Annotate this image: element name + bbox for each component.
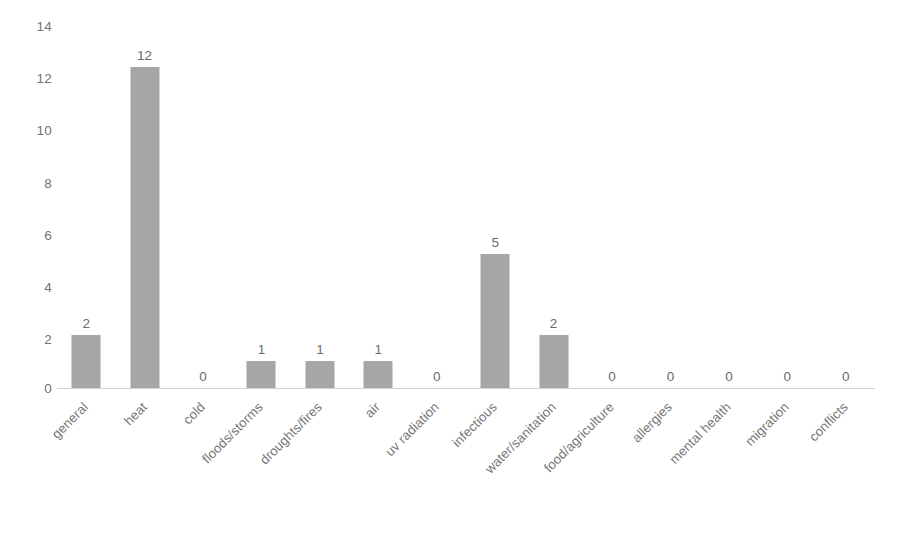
y-axis-tick-label: 6 — [8, 229, 52, 243]
bar-group: 2 — [524, 14, 582, 388]
y-axis-tick-label: 10 — [8, 124, 52, 138]
bar-value-label: 5 — [491, 235, 499, 250]
bar-group: 0 — [700, 14, 758, 388]
x-axis-tick: conflicts — [817, 392, 875, 522]
y-axis-tick-label: 4 — [8, 281, 52, 295]
bar-value-label: 0 — [199, 369, 207, 384]
bar-value-label: 2 — [550, 316, 558, 331]
bar-group: 0 — [817, 14, 875, 388]
x-axis-tick: air — [349, 392, 407, 522]
bar-group: 12 — [115, 14, 173, 388]
x-axis-tick: migration — [758, 392, 816, 522]
y-axis-tick-label: 12 — [8, 72, 52, 86]
y-axis: 14 12 10 8 6 4 2 0 — [0, 0, 52, 400]
y-axis-tick-label: 0 — [8, 382, 52, 396]
bar-group: 0 — [408, 14, 466, 388]
x-axis-line — [57, 388, 875, 389]
bar-value-label: 1 — [258, 342, 266, 357]
bar-value-label: 0 — [842, 369, 850, 384]
bar-group: 0 — [758, 14, 816, 388]
bar[interactable] — [305, 361, 334, 388]
x-axis-tick-label: general — [50, 400, 92, 442]
bar-value-label: 0 — [784, 369, 792, 384]
x-axis-tick: droughts/fires — [291, 392, 349, 522]
bar-value-label: 2 — [82, 316, 90, 331]
bar-value-label: 0 — [608, 369, 616, 384]
x-axis-tick: uv radiation — [408, 392, 466, 522]
plot-area: 212011105200000 — [57, 14, 875, 388]
bar-group: 2 — [57, 14, 115, 388]
x-axis-tick-label: air — [363, 400, 383, 420]
bar-value-label: 1 — [316, 342, 324, 357]
bar-group: 1 — [349, 14, 407, 388]
bar-value-label: 0 — [725, 369, 733, 384]
x-axis-tick: food/agriculture — [583, 392, 641, 522]
bar-value-label: 0 — [433, 369, 441, 384]
bar[interactable] — [539, 335, 568, 388]
bar-group: 0 — [583, 14, 641, 388]
bar[interactable] — [247, 361, 276, 388]
bar-value-label: 0 — [667, 369, 675, 384]
y-axis-tick-label: 14 — [8, 20, 52, 34]
bar-group: 0 — [641, 14, 699, 388]
x-axis-tick: mental health — [700, 392, 758, 522]
bar[interactable] — [72, 335, 101, 388]
x-axis-tick: general — [57, 392, 115, 522]
x-axis-tick-label: cold — [181, 400, 208, 427]
bar[interactable] — [130, 67, 159, 388]
bar[interactable] — [481, 254, 510, 388]
x-axis-tick: heat — [115, 392, 173, 522]
bar-group: 5 — [466, 14, 524, 388]
bar-chart: 14 12 10 8 6 4 2 0 212011105200000 gener… — [0, 0, 911, 534]
y-axis-tick-label: 8 — [8, 177, 52, 191]
bar[interactable] — [364, 361, 393, 388]
x-axis-tick-label: heat — [121, 400, 149, 428]
bar-group: 0 — [174, 14, 232, 388]
y-axis-tick-label: 2 — [8, 333, 52, 347]
bar-value-label: 1 — [375, 342, 383, 357]
bar-group: 1 — [232, 14, 290, 388]
bar-group: 1 — [291, 14, 349, 388]
x-axis: generalheatcoldfloods/stormsdroughts/fir… — [57, 392, 875, 522]
bar-value-label: 12 — [137, 48, 152, 63]
